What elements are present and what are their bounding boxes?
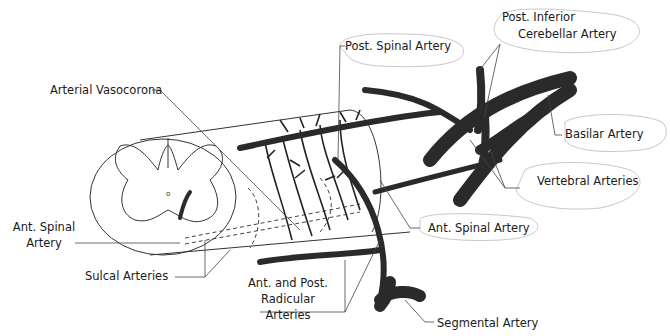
- label-radicular-2: Radicular: [238, 292, 338, 306]
- label-segmental-artery: Segmental Artery: [437, 316, 538, 330]
- label-vertebral-arteries: Vertebral Arteries: [537, 174, 638, 188]
- label-ant-spinal-artery-right: Ant. Spinal Artery: [428, 221, 530, 235]
- central-canal-mark: o: [166, 190, 170, 198]
- label-sulcal-arteries: Sulcal Arteries: [85, 269, 168, 283]
- label-arterial-vasocorona: Arterial Vasocorona: [50, 83, 162, 97]
- label-post-inferior-cerebellar-2: Cerebellar Artery: [518, 27, 617, 41]
- label-post-spinal-artery: Post. Spinal Artery: [345, 39, 451, 53]
- spinal-cord-arterial-diagram: o: [0, 0, 670, 336]
- label-ant-spinal-artery-left-2: Artery: [8, 236, 80, 250]
- label-ant-spinal-artery-left-1: Ant. Spinal: [8, 220, 80, 234]
- sulcal-dashed: [185, 178, 360, 248]
- label-post-inferior-cerebellar-1: Post. Inferior: [502, 10, 575, 24]
- label-basilar-artery: Basilar Artery: [565, 127, 643, 141]
- label-radicular-3: Arteries: [238, 308, 338, 322]
- label-radicular-1: Ant. and Post.: [238, 276, 338, 290]
- spinal-cord-outline: [90, 110, 410, 255]
